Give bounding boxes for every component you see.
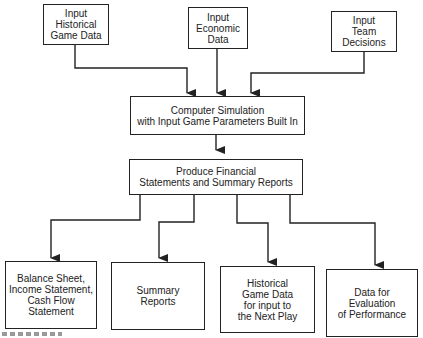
figure-caption-fragment (2, 332, 62, 336)
simulation-box: Computer Simulation with Input Game Para… (130, 96, 305, 135)
input-economic-box: Input Economic Data (188, 7, 248, 49)
input-historical-box: Input Historical Game Data (43, 4, 109, 45)
produce-reports-box: Produce Financial Statements and Summary… (129, 159, 303, 195)
output-summary-box: Summary Reports (111, 262, 205, 330)
output-statements-box: Balance Sheet, Income Statement, Cash Fl… (5, 261, 97, 329)
input-team-box: Input Team Decisions (331, 11, 397, 52)
output-evaluation-box: Data for Evaluation of Performance (326, 269, 418, 337)
output-historical-box: Historical Game Data for input to the Ne… (220, 266, 315, 333)
